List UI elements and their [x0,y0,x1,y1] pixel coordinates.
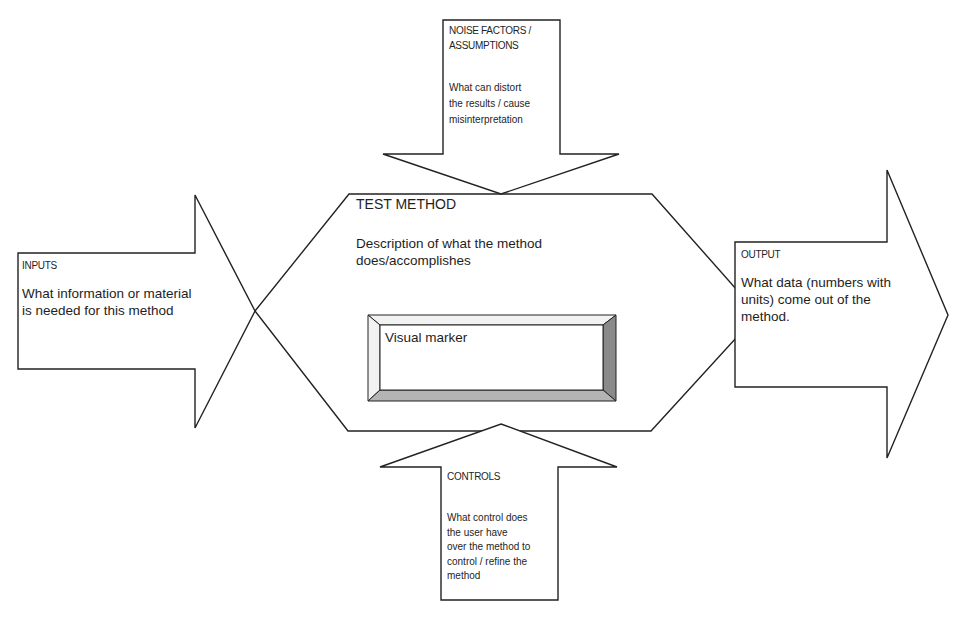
noise-description-line: the results / cause [449,96,530,112]
visual-marker-box [368,315,616,401]
test-method-description-line: Description of what the method [356,236,542,253]
output-description: What data (numbers with units) come out … [741,275,891,326]
controls-description: What control does the user have over the… [447,511,530,584]
controls-title: CONTROLS [447,471,500,484]
output-description-line: What data (numbers with [741,275,891,292]
noise-description-line: What can distort [449,80,530,96]
controls-description-line: method [447,569,530,584]
controls-description-line: What control does [447,511,530,526]
test-method-description-line: does/accomplishes [356,253,542,270]
noise-title-line: ASSUMPTIONS [449,39,531,54]
controls-description-line: over the method to [447,540,530,555]
noise-description-line: misinterpretation [449,112,530,128]
inputs-description: What information or material is needed f… [22,286,192,320]
noise-title: NOISE FACTORS / ASSUMPTIONS [449,24,531,53]
test-method-description: Description of what the method does/acco… [356,236,542,270]
inputs-description-line: What information or material [22,286,192,303]
noise-description: What can distort the results / cause mis… [449,80,530,128]
noise-title-line: NOISE FACTORS / [449,24,531,39]
output-description-line: units) come out of the [741,292,891,309]
inputs-description-line: is needed for this method [22,303,192,320]
output-title: OUTPUT [741,249,780,262]
inputs-title: INPUTS [22,260,57,273]
output-description-line: method. [741,309,891,326]
test-method-title: TEST METHOD [356,196,456,214]
controls-description-line: control / refine the [447,555,530,570]
controls-description-line: the user have [447,526,530,541]
visual-marker-label: Visual marker [385,330,467,347]
